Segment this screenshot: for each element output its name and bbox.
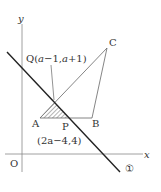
- q-leader: [51, 65, 54, 100]
- point-p-label: P: [62, 121, 69, 132]
- point-c-label: C: [109, 37, 117, 48]
- point-a-label: A: [31, 118, 40, 129]
- point-p-coords: (2a−4,4): [37, 135, 82, 146]
- y-axis-label: y: [17, 13, 24, 24]
- origin-label: O: [10, 158, 18, 169]
- hatched-region: [40, 102, 68, 118]
- line-1-label: ①: [125, 163, 134, 174]
- segment-CB: [92, 48, 107, 118]
- point-q-label: Q(a−1,a+1): [26, 53, 87, 64]
- coordinate-diagram: y x O C A B P (2a−4,4) Q(a−1,a+1) ①: [0, 0, 161, 192]
- x-axis-label: x: [144, 149, 150, 160]
- point-b-label: B: [92, 118, 99, 129]
